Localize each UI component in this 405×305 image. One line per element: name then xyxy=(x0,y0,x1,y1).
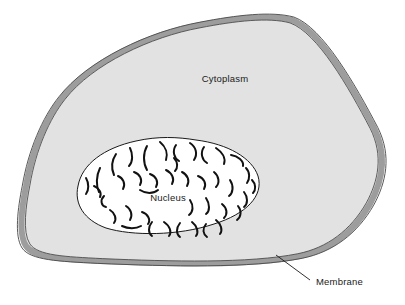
cell-diagram-canvas: Cytoplasm Nucleus Membrane xyxy=(0,0,405,305)
membrane-label: Membrane xyxy=(316,276,363,287)
nucleus-label: Nucleus xyxy=(150,192,186,203)
cell-diagram: Cytoplasm Nucleus Membrane xyxy=(0,0,405,305)
cytoplasm-label: Cytoplasm xyxy=(202,73,249,84)
